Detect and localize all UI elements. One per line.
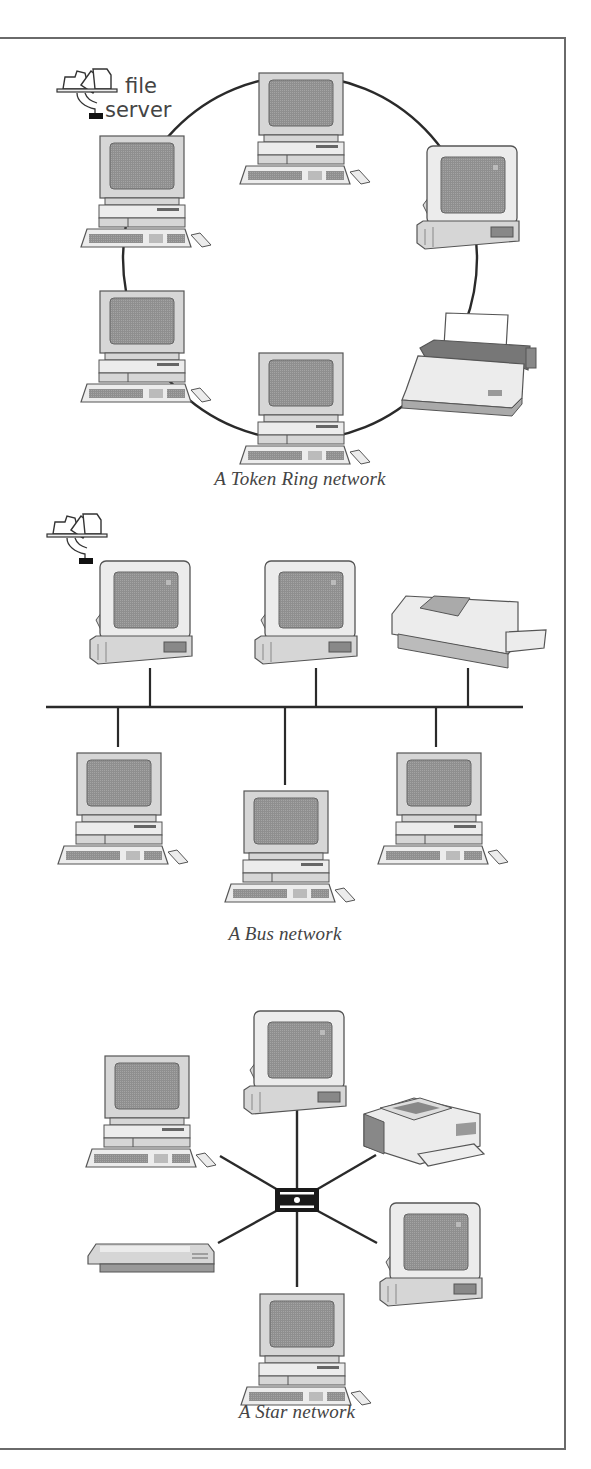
desktop-computer-icon xyxy=(232,352,377,467)
laser-printer-icon xyxy=(362,1094,497,1179)
desktop-computer-icon xyxy=(370,752,515,867)
desktop-computer-icon xyxy=(233,1293,378,1408)
cable-segment xyxy=(218,1210,278,1243)
network-topologies-figure: file server A Token Ring network A Bus n… xyxy=(0,0,591,1469)
monitor-computer-icon xyxy=(415,145,525,255)
scanner-icon xyxy=(84,1238,219,1278)
token-ring-caption: A Token Ring network xyxy=(214,468,385,490)
desktop-computer-icon xyxy=(50,752,195,867)
monitor-computer-icon xyxy=(242,1010,352,1120)
file-server-label-line1: file xyxy=(105,74,171,98)
file-server-label: file server xyxy=(105,74,171,122)
desktop-computer-icon xyxy=(217,790,362,905)
bus-caption: A Bus network xyxy=(228,923,341,945)
desktop-computer-icon xyxy=(73,290,218,405)
monitor-computer-icon xyxy=(253,560,363,670)
cable-segment xyxy=(220,1156,278,1190)
star-caption: A Star network xyxy=(239,1401,355,1423)
file-server-label-line2: server xyxy=(105,98,171,122)
monitor-computer-icon xyxy=(88,560,198,670)
desktop-computer-icon xyxy=(78,1055,223,1170)
dot-matrix-printer-icon xyxy=(400,312,540,422)
desktop-computer-icon xyxy=(232,72,377,187)
cable-segment xyxy=(316,1210,377,1243)
desktop-computer-icon xyxy=(73,135,218,250)
monitor-computer-icon xyxy=(378,1202,488,1312)
hub-icon xyxy=(275,1188,319,1212)
laser-printer-icon xyxy=(388,588,558,673)
